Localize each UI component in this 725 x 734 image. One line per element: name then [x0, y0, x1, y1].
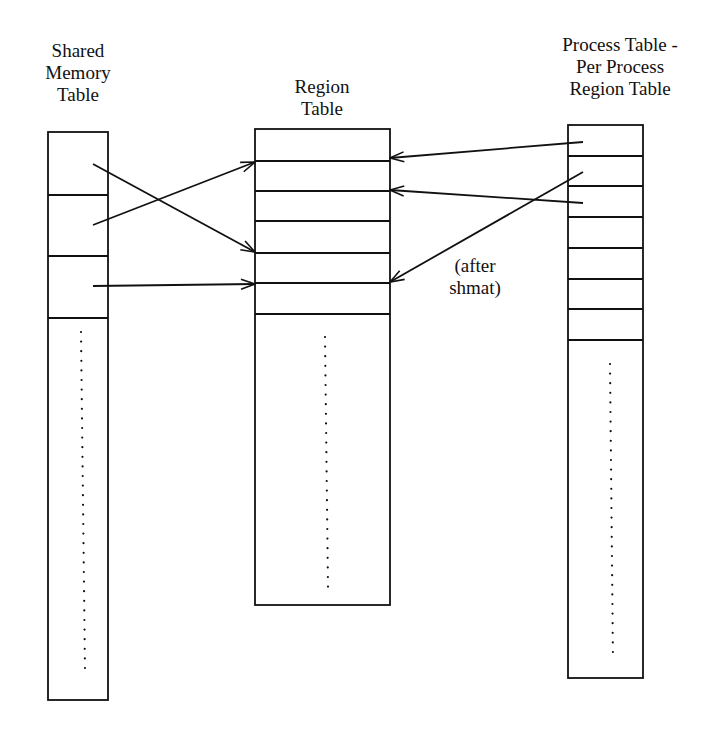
per-process-region-table: [568, 125, 643, 678]
arrow-shm-entry3-to-region: [93, 284, 255, 286]
table-frame: [568, 125, 643, 678]
continuation-dots: [81, 332, 85, 670]
region-table: [255, 129, 390, 605]
arrow-pregion-entry3-to-region: [390, 190, 583, 203]
arrow-shm-entry1-to-region: [93, 164, 255, 252]
table-frame: [48, 132, 108, 700]
shared-memory-table: [48, 132, 108, 700]
arrow-shm-entry2-to-region: [93, 162, 255, 225]
continuation-dots: [325, 337, 328, 587]
arrow-pregion-entry1-to-region: [390, 142, 583, 158]
diagram-canvas: Shared Memory Table Region Table Process…: [0, 0, 725, 734]
arrow-pregion-entry2-to-region-after-shmat: [390, 172, 583, 282]
table-frame: [255, 129, 390, 605]
diagram-graphics: [0, 0, 725, 734]
continuation-dots: [610, 364, 613, 661]
